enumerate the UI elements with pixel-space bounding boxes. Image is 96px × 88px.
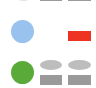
- blue-circle-icon: [11, 20, 34, 43]
- top-partial-gray-rect-2: [68, 0, 91, 1]
- top-partial-circle-icon: [18, 0, 29, 1]
- green-circle-icon: [11, 61, 34, 84]
- red-rect: [68, 31, 91, 41]
- top-partial-gray-rect-1: [40, 0, 62, 1]
- gray-rect-1: [40, 75, 62, 85]
- gray-rect-2: [68, 75, 91, 85]
- gray-ellipse-1: [40, 60, 62, 70]
- gray-ellipse-2: [68, 60, 91, 70]
